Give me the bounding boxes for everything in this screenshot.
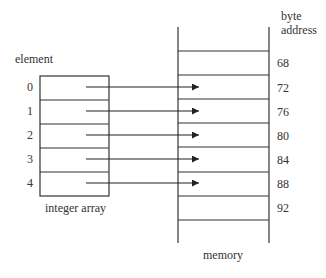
byte-address: 80 <box>277 129 289 144</box>
byte-address: 68 <box>277 56 289 71</box>
element-index: 1 <box>24 104 36 119</box>
byte-address: 92 <box>277 201 289 216</box>
address-label: address <box>281 23 317 37</box>
memory-label: memory <box>203 248 243 262</box>
element-index: 4 <box>24 176 36 191</box>
element-index: 2 <box>24 128 36 143</box>
byte-address: 72 <box>277 81 289 96</box>
pointer-arrows <box>86 87 199 183</box>
element-index: 0 <box>24 80 36 95</box>
byte-label: byte <box>281 9 302 23</box>
byte-address: 84 <box>277 153 289 168</box>
byte-address: 76 <box>277 105 289 120</box>
integer-array-label: integer array <box>45 201 106 215</box>
element-label: element <box>15 52 53 66</box>
byte-address: 88 <box>277 177 289 192</box>
element-index: 3 <box>24 152 36 167</box>
integer-array-box <box>40 76 109 196</box>
